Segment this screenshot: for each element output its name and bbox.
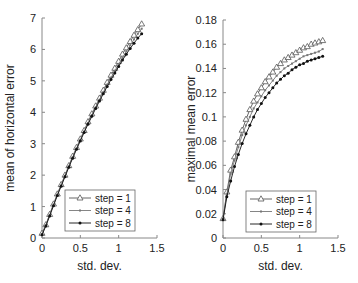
y-tick-label: 5 xyxy=(30,75,36,87)
chart-horizontal-error: 00.511.501234567std. dev.mean of horizon… xyxy=(3,12,165,273)
y-tick-label: 0.08 xyxy=(196,135,217,147)
y-tick-label: 4 xyxy=(30,106,36,118)
y-tick-label: 0.18 xyxy=(196,14,217,26)
y-tick-label: 0.1 xyxy=(202,111,217,123)
x-tick-label: 1 xyxy=(297,242,303,254)
y-tick-label: 7 xyxy=(30,12,36,24)
x-tick-label: 0 xyxy=(39,242,45,254)
y-axis-label: mean of horizontal error xyxy=(3,64,17,191)
y-tick-label: 0.16 xyxy=(196,38,217,50)
legend-label: step = 1 xyxy=(95,193,131,204)
figure: 00.511.501234567std. dev.mean of horizon… xyxy=(0,0,358,283)
figure-canvas: 00.511.501234567std. dev.mean of horizon… xyxy=(0,0,358,283)
legend-label: step = 4 xyxy=(95,205,131,216)
y-axis-label: maximal mean error xyxy=(184,76,198,183)
legend-label: step = 8 xyxy=(276,219,312,230)
x-axis-label: std. dev. xyxy=(77,259,121,273)
y-tick-label: 3 xyxy=(30,138,36,150)
chart-maximal-mean-error: 00.511.500.020.040.060.080.10.120.140.16… xyxy=(184,14,346,273)
y-tick-label: 0.14 xyxy=(196,62,217,74)
legend: step = 1step = 4step = 8 xyxy=(246,191,316,232)
y-tick-label: 0.06 xyxy=(196,159,217,171)
y-tick-label: 0.12 xyxy=(196,87,217,99)
x-tick-label: 0.5 xyxy=(254,242,269,254)
x-tick-label: 1.5 xyxy=(149,242,164,254)
y-tick-label: 2 xyxy=(30,169,36,181)
x-tick-label: 0 xyxy=(220,242,226,254)
legend-label: step = 4 xyxy=(276,206,312,217)
y-tick-label: 0.04 xyxy=(196,184,217,196)
y-tick-label: 0 xyxy=(211,232,217,244)
legend-label: step = 8 xyxy=(95,218,131,229)
y-tick-label: 0.02 xyxy=(196,208,217,220)
y-tick-label: 1 xyxy=(30,201,36,213)
x-tick-label: 0.5 xyxy=(73,242,88,254)
x-axis-label: std. dev. xyxy=(258,259,302,273)
y-tick-label: 6 xyxy=(30,43,36,55)
y-tick-label: 0 xyxy=(30,232,36,244)
x-tick-label: 1.5 xyxy=(330,242,345,254)
legend-label: step = 1 xyxy=(276,194,312,205)
legend: step = 1step = 4step = 8 xyxy=(65,190,135,231)
x-tick-label: 1 xyxy=(116,242,122,254)
